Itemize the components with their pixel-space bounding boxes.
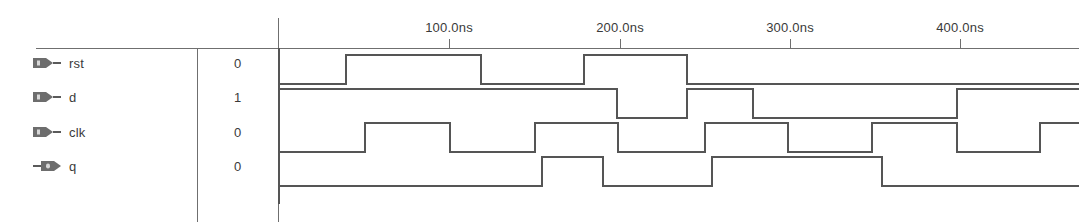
waveform-viewer: 100.0ns200.0ns300.0ns400.0ns rstdclkq 01… [0,0,1079,222]
signal-value-text: 0 [234,125,241,140]
signal-value-cell-q: 0 [197,151,278,181]
signal-row-d[interactable]: d [0,82,197,112]
signal-value-cell-clk: 0 [197,117,278,147]
signal-value-text: 0 [234,56,241,71]
input-port-icon [32,56,62,70]
time-tick-mark [790,39,791,48]
signal-value-text: 1 [234,90,241,105]
signal-name-panel: rstdclkq [0,48,197,222]
time-tick-label: 100.0ns [425,20,473,35]
signal-value-text: 0 [234,159,241,174]
waveform-d [279,89,1079,118]
output-port-icon [32,159,62,173]
signal-name-label: q [69,159,76,174]
signal-value-panel: 0100 [197,48,278,222]
signal-name-label: rst [69,56,84,71]
signal-name-label: d [69,90,76,105]
time-tick-mark [449,39,450,48]
signal-name-label: clk [69,125,86,140]
time-tick-label: 300.0ns [766,20,814,35]
time-tick-mark [620,39,621,48]
time-axis[interactable]: 100.0ns200.0ns300.0ns400.0ns [278,0,1079,48]
waveform-q [279,157,1079,186]
signal-row-q[interactable]: q [0,151,197,181]
waveform-clk [279,123,1079,152]
signal-row-clk[interactable]: clk [0,117,197,147]
waveform-rst [279,55,1079,84]
signal-row-rst[interactable]: rst [0,48,197,78]
time-tick-label: 400.0ns [936,20,984,35]
time-tick-label: 200.0ns [596,20,644,35]
input-port-icon [32,125,62,139]
input-port-icon [32,90,62,104]
value-wave-divider [278,18,279,222]
time-tick-mark [960,39,961,48]
signal-value-cell-rst: 0 [197,48,278,78]
signal-value-cell-d: 1 [197,82,278,112]
